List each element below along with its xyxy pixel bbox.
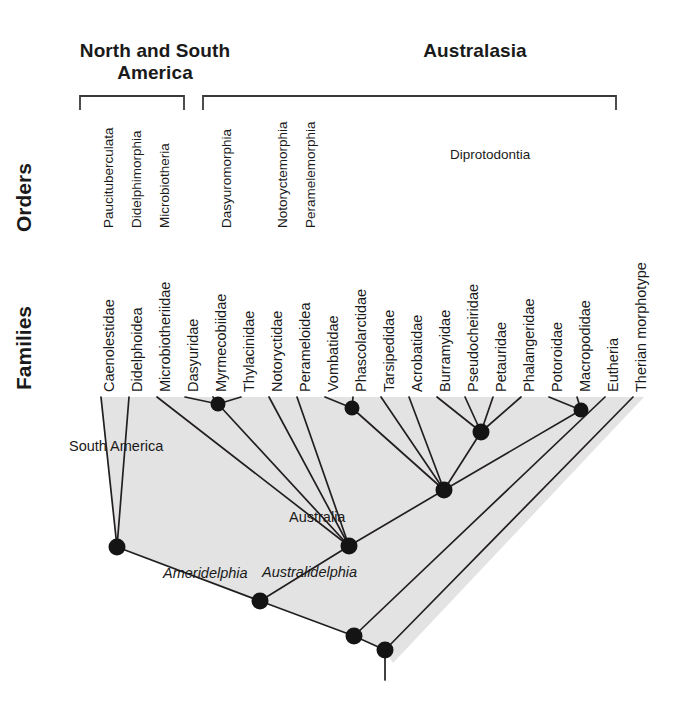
clade-annotation-ameridelphia: Ameridelphia	[163, 565, 248, 581]
clade-annotation-south-america: South America	[69, 438, 163, 454]
family-label-petauridae: Petauridae	[493, 322, 509, 392]
family-label-tarsipedidae: Tarsipedidae	[381, 310, 397, 392]
order-label-paucituberculata: Paucituberculata	[101, 127, 116, 228]
region-title-americas: North and SouthAmerica	[40, 40, 270, 85]
family-label-vombatidae: Vombatidae	[325, 315, 341, 392]
ameridelphia-node	[109, 539, 126, 556]
metatheria-node	[346, 628, 363, 645]
marsupialia-node	[252, 593, 269, 610]
region-title-australasia: Australasia	[330, 40, 620, 62]
family-label-didelphoidea: Didelphoidea	[129, 307, 145, 392]
family-label-potoroidae: Potoroidae	[549, 322, 565, 392]
family-label-caenolestidae: Caenolestidae	[101, 299, 117, 392]
dasyuromorphia-node	[211, 397, 226, 412]
order-label-didelphimorphia: Didelphimorphia	[129, 130, 144, 228]
petauroid-node	[473, 424, 490, 441]
theria-root-node	[377, 642, 394, 659]
family-label-myrmecobiidae: Myrmecobiidae	[213, 294, 229, 392]
family-label-phascolarctidae: Phascolarctidae	[353, 289, 369, 392]
family-label-burramyidae: Burramyidae	[437, 310, 453, 392]
axis-label-orders: Orders	[12, 163, 36, 232]
family-label-eutheria: Eutheria	[605, 338, 621, 392]
family-label-macropodidae: Macropodidae	[577, 300, 593, 392]
order-bracket-0	[80, 96, 184, 110]
vombatiform-node	[345, 401, 360, 416]
axis-label-families: Families	[12, 306, 36, 390]
clade-annotation-australia: Australia	[289, 509, 345, 525]
order-label-notoryctemorphia: Notoryctemorphia	[275, 121, 290, 228]
figure-canvas: North and SouthAmerica Australasia Order…	[0, 0, 700, 706]
family-label-dasyuridae: Dasyuridae	[185, 319, 201, 392]
order-label-peramelemorphia: Peramelemorphia	[303, 121, 318, 228]
family-label-pseudocheiridae: Pseudocheiridae	[465, 284, 481, 392]
diprotodontia-node	[436, 482, 453, 499]
order-bracket-layer	[80, 96, 616, 110]
australidelphia-node	[341, 538, 358, 555]
family-label-therian-morphotype: Therian morphotype	[633, 262, 649, 392]
family-label-thylacinidae: Thylacinidae	[241, 311, 257, 392]
order-label-dasyuromorphia: Dasyuromorphia	[219, 129, 234, 228]
order-bracket-1	[203, 96, 616, 110]
clade-annotation-australidelphia: Australidelphia	[262, 564, 357, 580]
family-label-phalangeridae: Phalangeridae	[521, 298, 537, 392]
order-label-diprotodontia: Diprotodontia	[450, 147, 530, 162]
macropodoid-node	[574, 403, 589, 418]
family-label-notoryctidae: Notoryctidae	[269, 311, 285, 392]
family-label-microbiotheriidae: Microbiotheriidae	[157, 282, 173, 392]
family-label-acrobatidae: Acrobatidae	[409, 315, 425, 392]
order-label-microbiotheria: Microbiotheria	[157, 143, 172, 228]
family-label-perameloidea: Perameloidea	[297, 303, 313, 392]
